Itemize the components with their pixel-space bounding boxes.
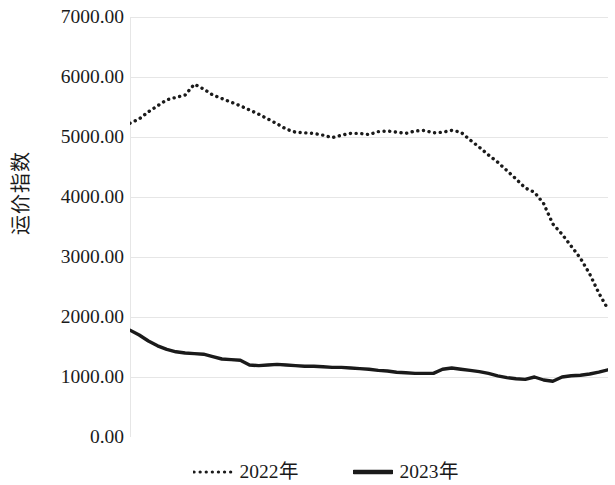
y-axis-title: 运价指数	[5, 128, 34, 258]
legend-dotted-swatch-icon	[193, 466, 233, 478]
y-tick-label: 2000.00	[38, 307, 124, 327]
y-tick-label: 5000.00	[38, 127, 124, 147]
legend-item[interactable]: 2022年	[193, 462, 299, 482]
y-tick-label: 4000.00	[38, 187, 124, 207]
gridlines	[130, 17, 608, 437]
y-tick-label: 1000.00	[38, 367, 124, 387]
plot-area	[130, 17, 608, 437]
y-axis-tick-labels: 7000.006000.005000.004000.003000.002000.…	[38, 0, 124, 485]
series-line	[130, 330, 608, 381]
legend-item[interactable]: 2023年	[353, 462, 459, 482]
series-layer	[130, 84, 608, 381]
freight-rate-index-chart: 运价指数 7000.006000.005000.004000.003000.00…	[0, 0, 615, 485]
chart-legend: 2022年2023年	[0, 458, 615, 485]
legend-solid-swatch-icon	[353, 466, 393, 478]
legend-label: 2022年	[240, 462, 299, 482]
y-tick-label: 6000.00	[38, 67, 124, 87]
y-tick-label: 7000.00	[38, 7, 124, 27]
y-tick-label: 0.00	[38, 427, 124, 447]
legend-label: 2023年	[400, 462, 459, 482]
plot-svg	[130, 17, 608, 437]
y-tick-label: 3000.00	[38, 247, 124, 267]
